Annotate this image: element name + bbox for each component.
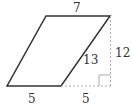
height-label: 12	[115, 46, 130, 60]
parallelogram-shape	[7, 16, 110, 86]
parallelogram-diagram: 7 13 12 5 5	[0, 0, 132, 110]
slant-side-label: 13	[83, 53, 98, 67]
top-side-label: 7	[73, 1, 81, 15]
extension-label: 5	[82, 92, 90, 106]
right-angle-marker	[99, 75, 111, 86]
bottom-side-label: 5	[28, 92, 36, 106]
